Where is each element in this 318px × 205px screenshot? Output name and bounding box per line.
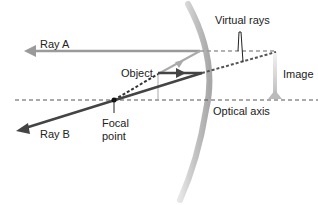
label-virtual-rays: Virtual rays [215, 14, 270, 26]
incident-ray-b-arrow [176, 68, 186, 78]
label-ray-a: Ray A [40, 38, 69, 50]
label-image: Image [283, 68, 314, 80]
label-ray-b: Ray B [40, 128, 70, 140]
convex-mirror [180, 4, 209, 200]
ray-diagram: Ray A Object Virtual rays Image Optical … [0, 0, 318, 205]
diagram-canvas [0, 0, 318, 205]
virtual-rays-pointer [238, 32, 243, 62]
label-focal-point-1: Focal [102, 117, 129, 129]
image-arrowhead [268, 90, 282, 99]
virtual-ray-b [202, 52, 276, 73]
label-focal-point-2: point [102, 130, 126, 142]
label-optical-axis: Optical axis [213, 105, 270, 117]
label-object: Object [121, 67, 153, 79]
ray-b-arrowhead [16, 123, 30, 134]
ray-a-arrowhead [24, 45, 36, 57]
incident-ray-a-arrow [175, 60, 184, 68]
